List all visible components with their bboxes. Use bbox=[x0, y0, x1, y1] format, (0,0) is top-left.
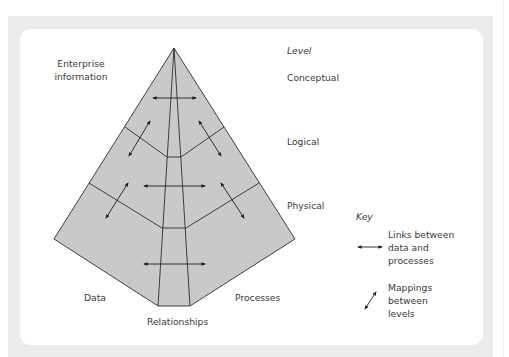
relationships-section-label: Relationships bbox=[147, 315, 208, 328]
level-header: Level bbox=[287, 44, 311, 57]
enterprise-information-label: Enterprise information bbox=[48, 57, 114, 83]
key-links-line-1: Links between bbox=[388, 228, 454, 241]
level-conceptual-label: Conceptual bbox=[287, 71, 339, 84]
key-links-line-2: data and bbox=[388, 241, 454, 254]
processes-section-label: Processes bbox=[235, 291, 280, 304]
level-logical-label: Logical bbox=[287, 135, 319, 148]
data-section-label: Data bbox=[84, 291, 106, 304]
key-mappings-line-2: between bbox=[388, 294, 432, 307]
key-links-line-3: processes bbox=[388, 254, 454, 267]
pyramid-shape bbox=[54, 48, 295, 306]
key-item-mappings: Mappings between levels bbox=[388, 281, 432, 320]
level-physical-label: Physical bbox=[287, 199, 324, 212]
key-title: Key bbox=[356, 210, 373, 223]
key-item-links: Links between data and processes bbox=[388, 228, 454, 267]
key-mappings-line-3: levels bbox=[388, 307, 432, 320]
key-mappings-line-1: Mappings bbox=[388, 281, 432, 294]
enterprise-label-line-2: information bbox=[48, 70, 114, 83]
key-diagonal-double-arrow-icon bbox=[365, 292, 376, 309]
enterprise-label-line-1: Enterprise bbox=[48, 57, 114, 70]
